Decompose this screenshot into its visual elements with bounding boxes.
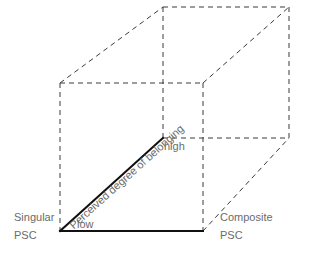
composite-psc-label: Composite PSC xyxy=(220,210,273,243)
connector-top-left xyxy=(60,7,163,83)
singular-psc-label: Singular PSC xyxy=(14,210,54,243)
connector-top-right xyxy=(203,7,289,83)
